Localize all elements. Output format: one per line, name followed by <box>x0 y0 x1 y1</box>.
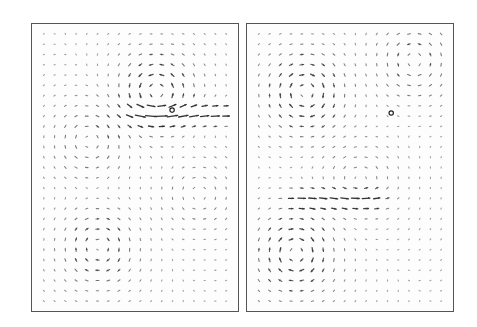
vector-arrow <box>355 115 356 117</box>
vector-arrow <box>376 74 377 76</box>
vector-arrow <box>258 188 259 189</box>
vector-arrow <box>97 33 98 34</box>
vector-arrow <box>107 105 109 107</box>
vector-arrow <box>430 106 432 107</box>
vector-arrow <box>44 280 45 281</box>
vector-arrow <box>344 157 346 158</box>
vector-arrow <box>301 177 302 178</box>
vector-arrow <box>408 54 410 56</box>
arrow-head <box>96 259 98 261</box>
vector-arrow <box>430 249 431 250</box>
vector-arrow <box>441 229 442 230</box>
vector-arrow <box>97 188 98 189</box>
vector-arrow <box>365 167 367 168</box>
vector-arrow <box>333 167 334 169</box>
vector-arrow <box>355 229 356 230</box>
arrow-head <box>228 115 230 117</box>
vector-field-panel-left <box>31 23 239 312</box>
vector-arrow <box>419 218 420 219</box>
vector-arrow <box>366 301 367 302</box>
vector-arrow <box>182 136 184 137</box>
vector-arrow <box>258 208 259 209</box>
vector-arrow <box>419 270 420 271</box>
vector-arrow <box>279 208 282 209</box>
vector-arrow <box>65 146 66 149</box>
vector-arrow <box>44 270 45 271</box>
vector-arrow <box>65 125 66 127</box>
arrow-head <box>218 115 220 117</box>
vector-arrow <box>129 64 131 66</box>
vector-arrow <box>441 136 442 137</box>
vector-arrow <box>182 229 184 230</box>
vector-arrow <box>76 54 77 55</box>
vector-arrow <box>376 95 377 97</box>
vector-arrow <box>161 301 162 302</box>
vector-arrow <box>429 74 431 76</box>
probe-marker <box>170 108 174 112</box>
vector-arrow <box>75 116 77 117</box>
vector-arrow <box>54 177 55 178</box>
vector-arrow <box>96 167 98 168</box>
vector-arrow <box>108 54 109 55</box>
vector-arrow <box>311 147 313 148</box>
vector-arrow <box>172 218 173 219</box>
vector-arrow <box>429 33 431 34</box>
vector-arrow <box>259 105 260 107</box>
vector-arrow <box>86 75 87 76</box>
vector-arrow <box>311 54 314 55</box>
vector-arrow <box>140 280 141 281</box>
vector-arrow <box>86 147 88 148</box>
vector-arrow <box>75 218 77 220</box>
vector-arrow <box>151 228 152 230</box>
vector-arrow <box>183 260 184 261</box>
vector-arrow <box>408 75 411 76</box>
vector-arrow <box>183 157 184 158</box>
arrow-head <box>367 207 369 209</box>
vector-arrow <box>398 270 399 271</box>
vector-arrow <box>107 156 109 158</box>
vector-arrow <box>311 301 313 302</box>
vector-arrow <box>355 126 356 127</box>
arrow-head <box>97 218 99 220</box>
vector-arrow <box>333 44 334 45</box>
vector-arrow <box>409 218 410 219</box>
vector-arrow <box>215 33 216 34</box>
vector-arrow <box>204 157 206 158</box>
vector-arrow <box>290 178 291 179</box>
vector-arrow <box>172 177 173 179</box>
vector-arrow <box>365 126 366 127</box>
vector-arrow <box>43 95 44 96</box>
vector-arrow <box>441 270 442 271</box>
vector-arrow <box>280 34 281 35</box>
vector-arrow <box>54 218 55 220</box>
vector-arrow <box>204 167 206 168</box>
vector-arrow <box>215 167 217 168</box>
vector-arrow <box>140 301 141 302</box>
vector-arrow <box>75 290 77 291</box>
arrow-head <box>258 248 260 250</box>
vector-arrow <box>108 94 109 96</box>
vector-arrow <box>118 280 120 281</box>
vector-arrow <box>387 157 388 158</box>
vector-arrow <box>140 156 141 158</box>
vector-arrow <box>279 44 281 45</box>
vector-arrow <box>344 167 346 169</box>
vector-arrow <box>215 197 216 199</box>
vector-arrow <box>387 218 388 219</box>
vector-arrow <box>75 106 77 107</box>
vector-arrow <box>344 54 345 56</box>
vector-arrow <box>419 229 420 230</box>
vector-arrow <box>258 146 259 147</box>
vector-arrow <box>344 280 345 282</box>
vector-arrow <box>215 157 216 158</box>
vector-arrow <box>54 167 55 169</box>
vector-arrow <box>96 105 98 106</box>
vector-arrow <box>65 167 67 169</box>
vector-arrow <box>376 43 377 45</box>
vector-arrow <box>344 301 345 302</box>
vector-arrow <box>85 218 88 219</box>
vector-arrow <box>258 126 259 127</box>
vector-arrow <box>140 218 141 220</box>
vector-arrow <box>333 228 335 230</box>
vector-arrow <box>344 218 346 219</box>
